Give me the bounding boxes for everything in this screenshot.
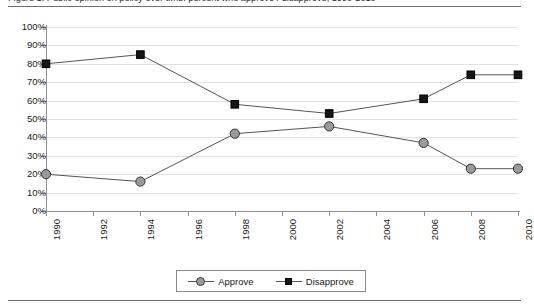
x-tick-label: 2000	[287, 219, 298, 240]
y-tick-label: 10%	[6, 188, 46, 198]
gridline	[46, 119, 518, 120]
legend-label-disapprove: Disapprove	[306, 276, 354, 287]
y-tick-label: 70%	[6, 77, 46, 87]
x-tick-mark	[93, 211, 94, 216]
x-tick-mark	[188, 211, 189, 216]
x-tick-label: 2008	[476, 219, 487, 240]
y-tick-label: 50%	[6, 114, 46, 124]
x-tick-label: 2010	[523, 219, 534, 240]
legend-item-approve[interactable]: Approve	[188, 276, 253, 287]
figure-bottom-rule	[8, 300, 521, 301]
y-tick-label: 80%	[6, 59, 46, 69]
gridline	[46, 27, 518, 28]
legend-item-disapprove[interactable]: Disapprove	[276, 276, 354, 287]
x-tick-label: 2002	[334, 219, 345, 240]
y-tick-label: 40%	[6, 132, 46, 142]
figure-caption: Figure 1. Public opinion on policy over …	[8, 0, 520, 5]
x-tick-label: 1998	[240, 219, 251, 240]
gridline	[46, 156, 518, 157]
square-marker-icon	[276, 276, 302, 287]
gridline	[46, 82, 518, 83]
x-tick-mark	[424, 211, 425, 216]
legend-label-approve: Approve	[218, 276, 253, 287]
x-tick-label: 1996	[193, 219, 204, 240]
gridline	[46, 193, 518, 194]
x-tick-mark	[46, 211, 47, 216]
y-tick-label: 20%	[6, 169, 46, 179]
x-tick-label: 2004	[381, 219, 392, 240]
y-axis-line	[46, 25, 47, 213]
y-tick-label: 30%	[6, 151, 46, 161]
circle-marker-icon	[188, 276, 214, 287]
x-tick-label: 1992	[98, 219, 109, 240]
x-tick-label: 1994	[145, 219, 156, 240]
plot-area	[46, 27, 518, 211]
x-tick-label: 2006	[429, 219, 440, 240]
x-tick-mark	[235, 211, 236, 216]
figure-top-rule	[8, 6, 521, 7]
gridline	[46, 137, 518, 138]
y-tick-label: 0%	[6, 206, 46, 216]
x-tick-mark	[518, 211, 519, 216]
x-tick-mark	[140, 211, 141, 216]
gridline	[46, 64, 518, 65]
y-axis-ticks: 0%10%20%30%40%50%60%70%80%90%100%	[0, 0, 46, 307]
gridline	[46, 45, 518, 46]
x-tick-label: 1990	[51, 219, 62, 240]
x-tick-mark	[329, 211, 330, 216]
gridline	[46, 174, 518, 175]
x-tick-mark	[376, 211, 377, 216]
y-tick-label: 100%	[6, 22, 46, 32]
chart-legend: Approve Disapprove	[176, 270, 366, 292]
gridline	[46, 101, 518, 102]
x-tick-mark	[282, 211, 283, 216]
y-tick-label: 60%	[6, 96, 46, 106]
x-tick-mark	[471, 211, 472, 216]
y-tick-label: 90%	[6, 40, 46, 50]
